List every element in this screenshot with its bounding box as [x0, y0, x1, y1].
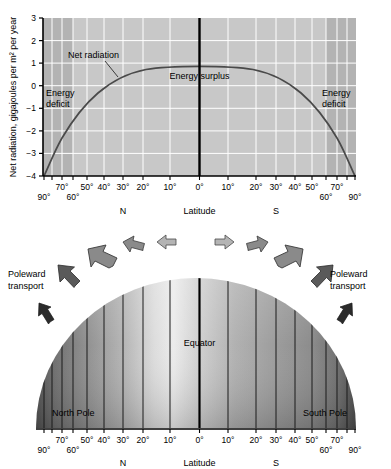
diagram-xtick-70N: 70° — [56, 435, 69, 445]
figure-svg: 3 2 1 0 −1 −2 −3 −4 Net radiation, gigaj… — [0, 0, 391, 469]
dome-north-pole-label: North Pole — [52, 408, 95, 418]
chart-xtick-10N: 10° — [164, 182, 177, 192]
chart-xtick-30S: 30° — [270, 182, 283, 192]
chart-hemisphere-label-south: S — [273, 206, 279, 216]
diagram-hemisphere-label-north: N — [120, 458, 127, 468]
chart-xtick-40S: 40° — [289, 182, 302, 192]
ytick-3: 3 — [31, 13, 36, 23]
chart-y-axis-title: Net radiation, gigajoules per m² per yea… — [8, 17, 18, 178]
poleward-transport-south-line1: Poleward — [330, 269, 368, 279]
chart-xtick-90N: 90° — [38, 192, 51, 202]
ytick-neg1: −1 — [26, 103, 36, 113]
annotation-net-radiation: Net radiation — [68, 50, 119, 60]
diagram-xtick-10N: 10° — [164, 435, 177, 445]
chart-hemisphere-label-north: N — [120, 206, 127, 216]
diagram-xtick-90N: 90° — [38, 445, 51, 455]
ytick-1: 1 — [31, 58, 36, 68]
annotation-energy-deficit-north-line1: Energy — [46, 88, 75, 98]
chart-xtick-30N: 30° — [117, 182, 130, 192]
annotation-energy-surplus: Energy surplus — [169, 71, 230, 81]
ytick-neg4: −4 — [26, 171, 36, 181]
chart-xtick-20S: 20° — [250, 182, 263, 192]
diagram-xtick-20S: 20° — [250, 435, 263, 445]
annotation-energy-deficit-north-line2: deficit — [46, 99, 70, 109]
diagram-xtick-90S: 90° — [349, 445, 362, 455]
diagram-xtick-50N: 50° — [81, 435, 94, 445]
chart-xtick-10S: 10° — [222, 182, 235, 192]
diagram-xtick-10S: 10° — [222, 435, 235, 445]
diagram-xtick-50S: 50° — [306, 435, 319, 445]
diagram-xtick-70S: 70° — [331, 435, 344, 445]
chart-xtick-40N: 40° — [98, 182, 111, 192]
ytick-0: 0 — [31, 81, 36, 91]
diagram-xtick-40S: 40° — [289, 435, 302, 445]
diagram-x-axis-title: Latitude — [183, 458, 215, 468]
ytick-2: 2 — [31, 36, 36, 46]
dome-equator-label: Equator — [184, 338, 216, 348]
chart-xtick-20N: 20° — [137, 182, 150, 192]
chart-xtick-70N: 70° — [56, 182, 69, 192]
ytick-neg2: −2 — [26, 126, 36, 136]
diagram-xtick-30S: 30° — [270, 435, 283, 445]
chart-xtick-50N: 50° — [81, 182, 94, 192]
poleward-transport-south-line2: transport — [330, 281, 366, 291]
chart-x-axis-title: Latitude — [183, 206, 215, 216]
diagram-xtick-0: 0° — [195, 435, 203, 445]
diagram-xtick-60S: 60° — [320, 445, 333, 455]
chart-xtick-70S: 70° — [331, 182, 344, 192]
chart-xtick-60S: 60° — [320, 192, 333, 202]
diagram-xtick-30N: 30° — [117, 435, 130, 445]
annotation-energy-deficit-south-line2: deficit — [322, 99, 346, 109]
diagram-xtick-20N: 20° — [137, 435, 150, 445]
poleward-transport-north-line1: Poleward — [8, 269, 46, 279]
diagram-xtick-60N: 60° — [67, 445, 80, 455]
diagram-xtick-40N: 40° — [98, 435, 111, 445]
annotation-energy-deficit-south-line1: Energy — [322, 88, 351, 98]
chart-xtick-60N: 60° — [67, 192, 80, 202]
poleward-transport-north-line2: transport — [8, 281, 44, 291]
diagram-hemisphere-label-south: S — [273, 458, 279, 468]
chart-x-tick-labels-upper: 70° 50° 40° 30° 20° 10° 0° 10° 20° 30° 4… — [56, 182, 344, 192]
figure-root: 3 2 1 0 −1 −2 −3 −4 Net radiation, gigaj… — [0, 0, 391, 469]
chart-xtick-90S: 90° — [349, 192, 362, 202]
dome-south-pole-label: South Pole — [303, 408, 347, 418]
ytick-neg3: −3 — [26, 148, 36, 158]
chart-xtick-0: 0° — [195, 182, 203, 192]
chart-xtick-50S: 50° — [306, 182, 319, 192]
diagram-x-tick-labels-upper: 70° 50° 40° 30° 20° 10° 0° 10° 20° 30° 4… — [56, 435, 344, 445]
